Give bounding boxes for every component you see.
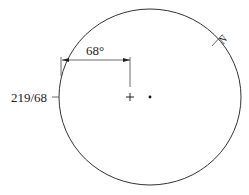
stereonet-diagram: N 68° 219/68: [0, 0, 249, 195]
plane-label: 219/68: [11, 90, 47, 105]
angle-label: 68°: [86, 43, 104, 58]
angle-dimension: 68°: [61, 43, 130, 87]
center-dot: [149, 96, 152, 99]
right-arrow-icon: [123, 58, 130, 62]
north-label: N: [215, 32, 230, 47]
left-arrow-icon: [62, 58, 69, 62]
plane-label-group: 219/68: [11, 90, 59, 105]
center-cross-icon: [126, 93, 134, 101]
